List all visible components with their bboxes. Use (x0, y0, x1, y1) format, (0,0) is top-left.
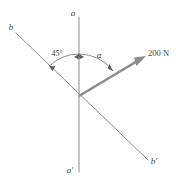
angle-45-arc-arrowhead-end (74, 54, 79, 59)
force-magnitude-label: 200 N (148, 48, 169, 58)
force-vector (79, 56, 146, 96)
axis-b-line (16, 33, 148, 160)
axis-a-top-label: a (71, 8, 76, 18)
angle-alpha-arc-arrowhead-end (108, 64, 113, 71)
axis-b-bottom-label: b' (151, 156, 159, 166)
angle-alpha-label: α (97, 51, 102, 60)
axis-a-bottom-label: a' (67, 165, 75, 175)
angle-45-label: 45° (51, 49, 62, 58)
force-diagram-canvas: a a' b b' 45° α 200 N (0, 0, 176, 184)
axis-b-top-label: b (9, 22, 14, 32)
force-diagram-figure: a a' b b' 45° α 200 N (0, 0, 176, 184)
angle-alpha-arc-arrowhead-start (79, 54, 84, 59)
force-vector-arrowhead (134, 56, 146, 66)
